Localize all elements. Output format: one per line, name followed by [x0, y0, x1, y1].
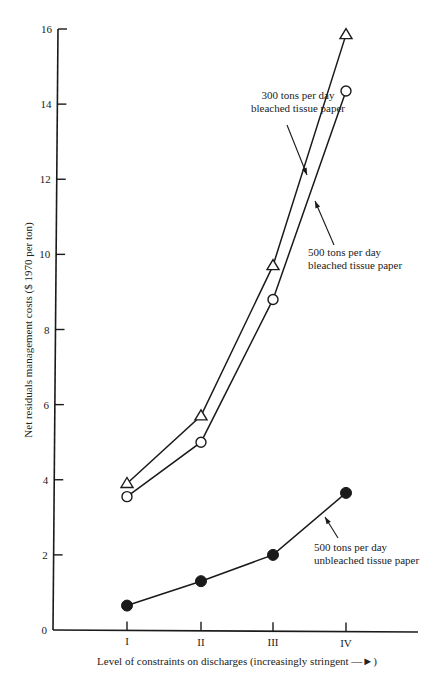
x-tick-label: IV: [340, 637, 352, 649]
annotation-arrow-line: [287, 125, 307, 175]
annotation-text: 300 tons per day: [261, 89, 335, 101]
y-tick-label: 8: [44, 324, 50, 336]
annotation-text: bleached tissue paper: [308, 259, 402, 271]
annotation-text: bleached tissue paper: [251, 102, 345, 114]
annotation-arrowhead-icon: [315, 201, 320, 208]
x-ticks: IIIIIIIV: [125, 621, 352, 648]
y-tick-label: 14: [40, 98, 52, 110]
data-point-filled-circle: [122, 600, 133, 611]
y-axis-title: Net residuals management costs ($ 1970 p…: [22, 222, 35, 438]
y-tick-label: 2: [42, 549, 48, 561]
chart: 0246810121416 IIIIIIIV Net residuals man…: [0, 0, 445, 685]
x-axis: [53, 630, 418, 632]
annotation-arrowhead-icon: [325, 517, 331, 524]
series-2: [122, 86, 351, 502]
data-point-open-circle: [268, 294, 278, 304]
data-point-triangle: [340, 29, 352, 39]
annotation-text: 500 tons per day: [314, 541, 388, 553]
annotation-arrow-line: [315, 201, 334, 245]
x-axis-title: Level of constraints on discharges (incr…: [97, 655, 377, 668]
x-tick-label: I: [125, 635, 129, 647]
data-point-open-circle: [341, 86, 351, 96]
x-tick-label: III: [268, 636, 279, 648]
y-tick-label: 6: [43, 399, 49, 411]
annotation-series-2: 500 tons per daybleached tissue paper: [308, 201, 402, 271]
annotation-text: unbleached tissue paper: [314, 554, 419, 566]
data-point-filled-circle: [196, 576, 207, 587]
x-tick-label: II: [197, 636, 205, 648]
series-layer: [121, 29, 352, 611]
data-point-filled-circle: [341, 487, 352, 498]
y-tick-label: 4: [43, 474, 49, 486]
data-point-filled-circle: [268, 549, 279, 560]
y-tick-label: 0: [42, 624, 48, 636]
y-tick-label: 12: [40, 173, 51, 185]
annotations: 300 tons per daybleached tissue paper500…: [251, 89, 419, 566]
data-point-triangle: [195, 410, 207, 420]
y-tick-label: 16: [41, 23, 53, 35]
y-tick-label: 10: [39, 248, 51, 260]
data-point-open-circle: [122, 492, 132, 502]
data-point-open-circle: [196, 437, 206, 447]
series-line: [127, 91, 346, 497]
data-point-triangle: [267, 260, 279, 270]
annotation-series-3: 500 tons per dayunbleached tissue paper: [314, 517, 419, 566]
annotation-text: 500 tons per day: [308, 246, 382, 258]
